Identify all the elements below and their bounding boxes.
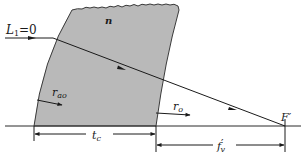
refractive-index-label: n (105, 15, 112, 26)
thickness-label: tc (92, 129, 101, 143)
back-radius-label: ro (173, 100, 183, 114)
incident-ray-label: L1=0 (5, 23, 37, 38)
back-focal-length-label: f′v (216, 137, 226, 154)
lens-ray-diagram: L1=0 n rao ro F′ tc f′v (0, 0, 301, 158)
back-radius-arrow (156, 113, 190, 115)
focal-point-label: F′ (280, 111, 292, 124)
